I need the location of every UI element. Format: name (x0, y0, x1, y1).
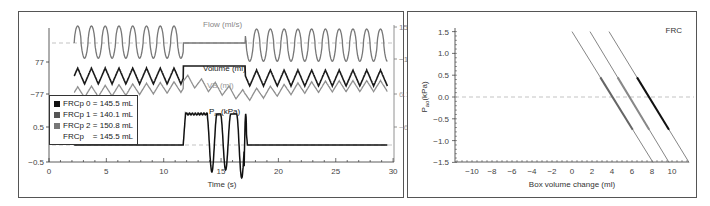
x-tick-label: 6 (630, 167, 635, 176)
y-tick-label: −1.0 (433, 137, 449, 146)
frc-y-axis-title: Pao(kPa) (420, 81, 430, 112)
legend-label: FRCp 1 = 140.1 mL (63, 109, 133, 120)
legend-item: FRCp 1 = 140.1 mL (54, 109, 133, 120)
x-tick-label: −8 (487, 167, 497, 176)
x-tick-label: 8 (650, 167, 655, 176)
x-tick-label: −10 (465, 167, 479, 176)
y-tick-label: 0.5 (438, 71, 450, 80)
frc-data-segment (637, 77, 669, 129)
legend-label: FRCp 2 = 150.8 mL (63, 120, 133, 131)
frc-data-segment (600, 77, 632, 129)
legend-swatch (54, 101, 60, 107)
frc-y-ticks: 1.51.00.50.0−0.5−1.0−1.5 (433, 28, 457, 168)
legend-item: FRCp 0 = 145.5 mL (54, 98, 133, 109)
y-tick-label: 0.0 (438, 93, 450, 102)
frc-x-axis-title: Box volume change (ml) (529, 180, 616, 189)
x-tick-label: 2 (590, 167, 595, 176)
y-tick-label: 1.5 (438, 28, 450, 37)
x-tick-label: −4 (527, 167, 537, 176)
x-tick-label: 10 (668, 167, 677, 176)
legend-label: FRCp = 145.5 mL (63, 131, 133, 142)
y-tick-label: 1.0 (438, 49, 450, 58)
frc-data-segment (618, 77, 650, 129)
legend-item: FRCp 2 = 150.8 mL (54, 120, 133, 131)
x-tick-label: −6 (507, 167, 517, 176)
legend-swatch (54, 123, 60, 129)
x-tick-label: 4 (610, 167, 615, 176)
x-tick-label: 0 (570, 167, 575, 176)
legend-item: FRCp = 145.5 mL (54, 131, 133, 142)
legend-label: FRCp 0 = 145.5 mL (63, 98, 133, 109)
legend-swatch (54, 112, 60, 118)
legend-swatch (54, 134, 60, 140)
y-tick-label: −1.5 (433, 158, 449, 167)
x-tick-label: −2 (547, 167, 557, 176)
y-tick-label: −0.5 (433, 115, 449, 124)
frc-legend: FRCp 0 = 145.5 mL FRCp 1 = 140.1 mL FRCp… (49, 95, 138, 145)
frc-title: FRC (666, 26, 683, 35)
